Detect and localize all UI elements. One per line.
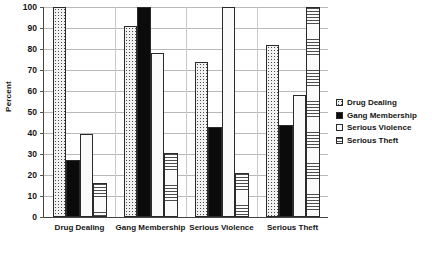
y-axis-tick (40, 217, 44, 218)
group-separator (115, 7, 116, 217)
y-axis-tick-label: 20 (28, 170, 37, 180)
x-axis-category-label: Drug Dealing (55, 223, 105, 232)
bar (208, 127, 222, 217)
bar (164, 153, 178, 217)
bar (306, 7, 320, 217)
bar (66, 160, 80, 217)
bar (195, 62, 209, 217)
legend-item-label: Serious Theft (347, 136, 398, 145)
bar (235, 173, 249, 217)
bar (137, 7, 151, 217)
bar (222, 7, 236, 217)
y-axis-tick-label: 60 (28, 86, 37, 96)
legend-swatch-icon (336, 112, 343, 119)
legend-item[interactable]: Serious Theft (336, 136, 417, 145)
x-axis-category-label: Serious Violence (189, 223, 253, 232)
y-axis-tick-label: 40 (28, 128, 37, 138)
bar-group: Gang Membership (115, 7, 186, 217)
chart-legend: Drug DealingGang MembershipSerious Viole… (336, 98, 417, 145)
legend-swatch-icon (336, 124, 343, 131)
x-axis-category-label: Gang Membership (116, 223, 186, 232)
legend-item-label: Drug Dealing (347, 98, 397, 107)
y-axis-tick-label: 10 (28, 191, 37, 201)
y-axis-title: Percent (4, 67, 13, 127)
y-axis-tick-label: 100 (23, 2, 37, 12)
y-axis-tick-label: 90 (28, 23, 37, 33)
bar (93, 183, 107, 217)
bar (53, 7, 67, 217)
group-separator (186, 7, 187, 217)
legend-swatch-icon (336, 99, 343, 106)
bar-group: Serious Violence (186, 7, 257, 217)
y-axis-tick-label: 50 (28, 107, 37, 117)
y-axis-tick-label: 30 (28, 149, 37, 159)
legend-swatch-icon (336, 137, 343, 144)
legend-item[interactable]: Gang Membership (336, 111, 417, 120)
y-axis-tick-label: 70 (28, 65, 37, 75)
bar (80, 134, 94, 217)
y-axis-tick-label: 80 (28, 44, 37, 54)
bar (151, 53, 165, 217)
x-axis-category-label: Serious Theft (267, 223, 318, 232)
legend-item-label: Serious Violence (347, 123, 411, 132)
bar (124, 26, 138, 217)
legend-item[interactable]: Drug Dealing (336, 98, 417, 107)
legend-item[interactable]: Serious Violence (336, 123, 417, 132)
bar-group: Serious Theft (257, 7, 328, 217)
y-axis-tick-label: 0 (32, 212, 37, 222)
group-separator (257, 7, 258, 217)
bar (279, 125, 293, 217)
bar-group: Drug Dealing (44, 7, 115, 217)
plot-area: 0102030405060708090100Drug DealingGang M… (43, 7, 328, 218)
bar (266, 45, 280, 217)
bar-chart: Percent 0102030405060708090100Drug Deali… (0, 0, 432, 255)
legend-item-label: Gang Membership (347, 111, 417, 120)
bar (293, 95, 307, 217)
